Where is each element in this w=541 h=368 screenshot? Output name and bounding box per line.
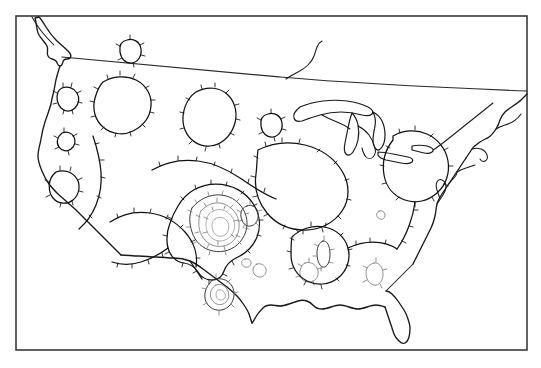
gulf-coast-line bbox=[252, 300, 385, 323]
contour-midsouth-dot-cell bbox=[242, 259, 251, 268]
contour-east-central-link bbox=[348, 242, 397, 249]
hachure-marks bbox=[89, 143, 105, 218]
contour-deep-south-sliver bbox=[313, 236, 334, 271]
contour-gulf-coast-cell bbox=[253, 264, 266, 277]
lake-huron-outline bbox=[373, 112, 385, 150]
contour-map-figure bbox=[0, 0, 541, 368]
contour-nebraska-cell bbox=[257, 109, 286, 141]
hachure-marks bbox=[202, 274, 238, 315]
hachure-marks bbox=[90, 71, 155, 137]
contour-midatlantic-tail bbox=[397, 202, 415, 249]
northern-minnesota-outline bbox=[286, 41, 322, 79]
michigan-lower-peninsula bbox=[358, 126, 375, 159]
contour-southern-plains-core bbox=[163, 180, 263, 284]
mexico-border-line bbox=[121, 255, 252, 323]
michigan-upper-peninsula bbox=[322, 115, 350, 129]
hachure-marks bbox=[203, 206, 238, 245]
pacific-northwest-coast bbox=[35, 17, 71, 66]
hachure-marks bbox=[251, 138, 351, 234]
atlantic-coast-line bbox=[413, 158, 466, 264]
contour-ring-3 bbox=[216, 290, 225, 300]
contour-west-interior-line bbox=[79, 136, 101, 229]
contour-southeast-belt bbox=[287, 222, 352, 289]
contour-ring-2 bbox=[190, 195, 247, 252]
contour-ring-2 bbox=[210, 284, 228, 304]
contour-carolina-point-cell bbox=[377, 211, 385, 220]
cape-cod-outline bbox=[472, 148, 487, 161]
contour-nevada-cell bbox=[54, 128, 79, 155]
hachure-marks bbox=[402, 210, 418, 243]
contour-ring-1 bbox=[205, 279, 234, 311]
lake-ontario-outline bbox=[412, 145, 433, 153]
florida-peninsula-outline bbox=[385, 291, 410, 343]
hachure-marks bbox=[180, 83, 240, 151]
florida-east-coast bbox=[386, 264, 413, 291]
hachure-marks bbox=[287, 222, 352, 289]
contour-ring-5 bbox=[212, 217, 229, 236]
contour-florida-cell bbox=[363, 258, 387, 288]
st-lawrence-outline bbox=[433, 103, 493, 150]
contour-midwest-system bbox=[251, 138, 351, 234]
contour-dakotas-cell bbox=[180, 83, 240, 151]
map-canvas bbox=[0, 0, 541, 368]
hachure-marks bbox=[186, 191, 249, 255]
contour-great-basin-cell bbox=[53, 83, 82, 114]
contour-northern-rockies-cell bbox=[90, 71, 155, 137]
hachure-marks bbox=[195, 198, 243, 250]
lake-superior-outline bbox=[294, 100, 373, 121]
map-frame bbox=[16, 16, 527, 350]
lake-michigan-outline bbox=[344, 113, 358, 155]
contour-south-texas-cell bbox=[202, 274, 238, 315]
west-coast-line bbox=[38, 66, 121, 255]
